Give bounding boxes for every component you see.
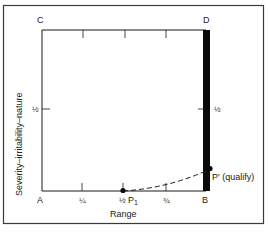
y-axis-label: Severity–irritability–nature: [14, 92, 24, 196]
dashed-curve: [123, 169, 210, 191]
point-p-prime: [207, 166, 212, 171]
corner-label-b: B: [202, 195, 208, 205]
x-tick-half: ½: [119, 196, 126, 205]
corner-label-d: D: [203, 15, 210, 25]
x-tick-three-quarter: ¾: [163, 196, 170, 205]
point-p1-label: P1: [128, 195, 138, 206]
x-axis-label: Range: [110, 209, 137, 219]
range-severity-diagram: C D A B ½ ½ ¼ ½ ¾ P1 P′ (qualify) Range …: [0, 0, 268, 236]
right-half-label: ½: [214, 105, 221, 114]
point-p1: [120, 188, 125, 193]
x-tick-quarter: ¼: [79, 196, 86, 205]
corner-label-c: C: [37, 15, 44, 25]
point-p-prime-label: P′ (qualify): [212, 172, 254, 182]
left-half-label: ½: [32, 105, 39, 114]
corner-label-a: A: [37, 195, 43, 205]
